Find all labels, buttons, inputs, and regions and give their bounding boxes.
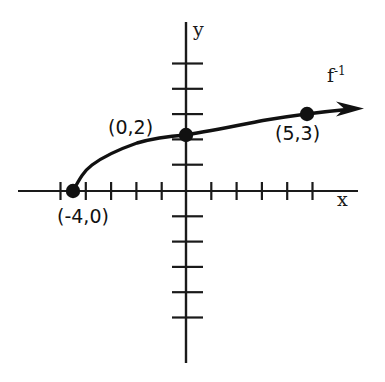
function-curve-group: [73, 102, 364, 192]
function-exponent: -1: [334, 64, 346, 78]
point-marker-5-3: [300, 107, 314, 121]
function-base-letter: f: [327, 64, 334, 86]
point-label-5-3: (5,3): [275, 124, 320, 143]
point-label-0-2: (0,2): [108, 118, 153, 137]
graph-figure: y x f-1 (0,2) (-4,0) (5,3): [0, 0, 385, 382]
coordinate-plane-svg: [0, 0, 385, 382]
plotted-points-group: [66, 107, 314, 198]
y-axis-label: y: [193, 20, 204, 39]
inverse-function-label: f-1: [327, 66, 346, 85]
point-label-neg4-0: (-4,0): [57, 207, 109, 226]
x-axis-label: x: [337, 190, 348, 209]
point-marker-neg4-0: [66, 184, 80, 198]
point-marker-0-2: [179, 128, 193, 142]
